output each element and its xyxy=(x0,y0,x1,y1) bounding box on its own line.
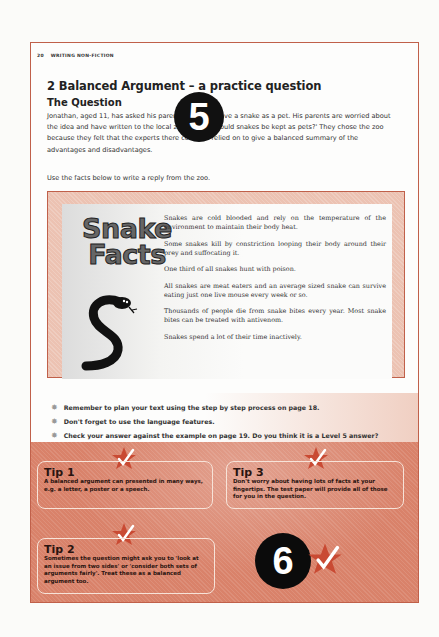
number-badge-6: 6 xyxy=(255,533,311,589)
instruction-text: Use the facts below to write a reply fro… xyxy=(47,174,210,182)
tip-body: Don't worry about having lots of facts a… xyxy=(233,478,397,501)
star-bullet-icon: ✸ xyxy=(51,417,58,426)
snake-facts-card: Snake Facts Snakes are cold blooded and … xyxy=(62,204,392,379)
section-label: WRITING NON-FICTION xyxy=(51,53,114,58)
tip-title: Tip 3 xyxy=(233,467,397,478)
fact-item: Snakes are cold blooded and rely on the … xyxy=(164,214,386,232)
snake-facts-list: Snakes are cold blooded and rely on the … xyxy=(164,214,386,349)
snake-facts-panel: Snake Facts Snakes are cold blooded and … xyxy=(47,191,405,378)
reminder-item: ✸Check your answer against the example o… xyxy=(51,431,378,440)
star-check-icon xyxy=(307,542,343,578)
reminder-item: ✸Remember to plan your text using the st… xyxy=(51,403,319,412)
page-title: 2 Balanced Argument – a practice questio… xyxy=(47,79,321,93)
page-header: 20 WRITING NON-FICTION xyxy=(37,53,114,58)
reminders-list: ✸Remember to plan your text using the st… xyxy=(31,393,418,445)
snake-icon xyxy=(74,292,144,372)
star-bullet-icon: ✸ xyxy=(51,403,58,412)
tips-panel: Tip 1 A balanced argument can presented … xyxy=(31,442,418,602)
number-badge-5: 5 xyxy=(174,92,224,142)
fact-item: One third of all snakes hunt with poison… xyxy=(164,265,386,274)
fact-item: Thousands of people die from snake bites… xyxy=(164,307,386,325)
tip-title: Tip 2 xyxy=(44,544,208,555)
tip-body: A balanced argument can presented in man… xyxy=(44,478,206,493)
tip-body: Sometimes the question might ask you to … xyxy=(44,555,208,585)
snake-facts-heading: Snake Facts xyxy=(82,216,172,268)
section-subtitle: The Question xyxy=(47,97,122,108)
star-bullet-icon: ✸ xyxy=(51,431,58,440)
tip-title: Tip 1 xyxy=(44,467,206,478)
reminder-item: ✸Don't forget to use the language featur… xyxy=(51,417,215,426)
fact-item: All snakes are meat eaters and an averag… xyxy=(164,282,386,300)
fact-item: Some snakes kill by constriction looping… xyxy=(164,240,386,258)
tip-2: Tip 2 Sometimes the question might ask y… xyxy=(37,538,215,594)
tip-3: Tip 3 Don't worry about having lots of f… xyxy=(226,461,404,509)
tip-1: Tip 1 A balanced argument can presented … xyxy=(37,461,213,509)
fact-item: Snakes spend a lot of their time inactiv… xyxy=(164,333,386,342)
workbook-page: 20 WRITING NON-FICTION 2 Balanced Argume… xyxy=(30,42,419,603)
page-number: 20 xyxy=(37,53,44,58)
